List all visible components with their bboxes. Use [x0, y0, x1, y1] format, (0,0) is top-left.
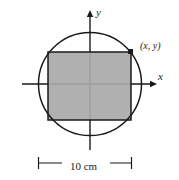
y-axis-arrowhead	[87, 10, 93, 17]
geometry-figure: y x (x, y) 10 cm	[0, 0, 179, 180]
x-axis-arrowhead	[150, 81, 157, 87]
dimension-label: 10 cm	[68, 161, 99, 172]
inscribed-rectangle	[48, 52, 131, 120]
y-axis-label: y	[96, 7, 101, 18]
point-coordinate-label: (x, y)	[140, 41, 161, 51]
x-axis-label: x	[158, 71, 163, 82]
dimension-label-wrap: 10 cm	[0, 161, 179, 172]
figure-canvas	[0, 0, 179, 180]
point-marker-xy	[128, 49, 133, 54]
